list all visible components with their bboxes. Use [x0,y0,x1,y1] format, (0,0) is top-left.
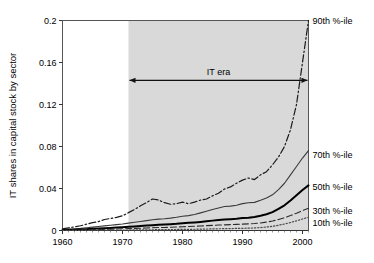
y-tick-label: 0.12 [39,100,57,110]
it-shares-line-chart: 00.040.080.120.160.219601970198019902000… [0,0,374,263]
series-label-10th-ile: 10th %-ile [313,218,353,228]
x-tick-label: 1990 [232,237,252,247]
it-era-label: IT era [207,67,230,77]
chart-container: 00.040.080.120.160.219601970198019902000… [0,0,374,263]
x-tick-label: 1970 [112,237,132,247]
y-tick-label: 0.04 [39,184,57,194]
series-label-90th-ile: 90th %-ile [313,16,353,26]
y-tick-label: 0 [51,226,56,236]
x-tick-label: 1960 [52,237,72,247]
x-tick-label: 1980 [172,237,192,247]
y-tick-label: 0.16 [39,58,57,68]
y-axis-title: IT shares in capital stock by sector [7,53,18,199]
series-label-50th-ile: 50th %-ile [313,182,353,192]
x-tick-label: 2000 [292,237,312,247]
y-tick-label: 0.2 [44,16,57,26]
y-tick-label: 0.08 [39,142,57,152]
series-label-30th-ile: 30th %-ile [313,206,353,216]
series-label-70th-ile: 70th %-ile [313,150,353,160]
